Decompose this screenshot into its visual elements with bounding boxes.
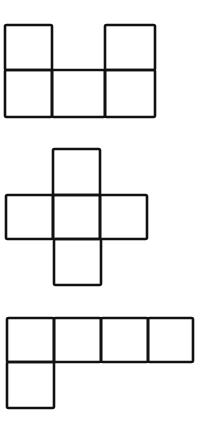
net-3-figure [7, 318, 193, 408]
net-2-square-5 [54, 239, 101, 285]
net-2-figure [6, 149, 147, 285]
net-1-square-1 [5, 25, 52, 70]
net-1-square-2 [105, 25, 155, 70]
net-2-square-4 [100, 195, 147, 239]
cube-nets-diagram [0, 0, 204, 433]
net-2-square-1 [53, 149, 100, 195]
net-3-square-1 [7, 318, 54, 362]
net-3-square-3 [101, 318, 148, 362]
net-1-square-5 [105, 70, 155, 117]
net-1-square-4 [52, 70, 105, 117]
net-3-square-5 [7, 362, 54, 408]
net-1-figure [5, 25, 155, 117]
net-3-square-2 [54, 318, 101, 362]
net-3-square-4 [148, 318, 193, 362]
net-1-square-3 [5, 70, 52, 117]
net-2-square-3 [53, 195, 100, 239]
net-2-square-2 [6, 195, 53, 239]
